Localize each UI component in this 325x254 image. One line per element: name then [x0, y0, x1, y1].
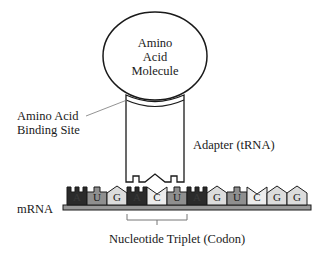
codon-label: Nucleotide Triplet (Codon)	[109, 232, 245, 246]
nucleotide-letter: G	[293, 191, 301, 203]
nucleotide-letter: C	[253, 191, 260, 203]
nucleotide-letter: C	[153, 191, 160, 203]
nucleotide-letter: A	[73, 191, 81, 203]
amino-acid-label: Amino Acid Molecule	[120, 36, 190, 78]
codon-bracket	[127, 214, 187, 225]
amino-acid-label-line-3: Molecule	[120, 64, 190, 78]
mrna-label: mRNA	[17, 202, 53, 216]
adapter-label: Adapter (tRNA)	[193, 138, 275, 152]
binding-site-leader	[86, 100, 127, 116]
nucleotide-letter: U	[93, 191, 101, 203]
amino-acid-label-line-2: Acid	[120, 50, 190, 64]
nucleotide-letter: A	[133, 191, 141, 203]
nucleotide-letter: G	[113, 191, 121, 203]
amino-acid-label-line-1: Amino	[120, 36, 190, 50]
binding-site-label: Amino Acid Binding Site	[17, 109, 80, 137]
mrna-backbone	[63, 205, 311, 210]
nucleotide-letter: A	[193, 191, 201, 203]
nucleotide-letter: G	[273, 191, 281, 203]
nucleotide-letter: U	[173, 191, 181, 203]
binding-site-label-line-1: Amino Acid	[17, 109, 80, 123]
nucleotide-letter: U	[233, 191, 241, 203]
nucleotide-letter: G	[213, 191, 221, 203]
binding-site-label-line-2: Binding Site	[17, 123, 80, 137]
trna-adapter	[126, 95, 184, 182]
nucleotide-strip: AUGACUAGUCGG	[67, 186, 307, 205]
